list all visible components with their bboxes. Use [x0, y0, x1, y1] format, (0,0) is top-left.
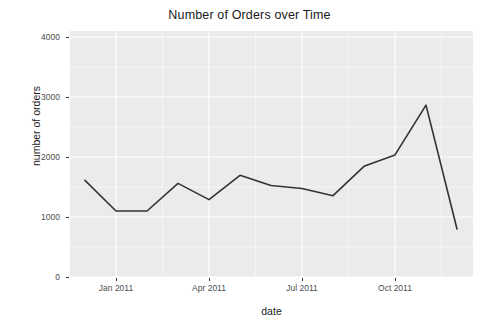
y-tick-label: 1000 [24, 213, 60, 222]
y-tick-mark [66, 217, 69, 218]
x-tick-label: Apr 2011 [192, 284, 226, 293]
y-tick-mark [66, 97, 69, 98]
data-line-series [70, 31, 473, 277]
x-tick-mark [209, 278, 210, 281]
y-tick-mark [66, 277, 69, 278]
chart-title: Number of Orders over Time [0, 8, 499, 22]
x-tick-mark [302, 278, 303, 281]
x-tick-mark [395, 278, 396, 281]
y-axis-title: number of orders [30, 46, 42, 206]
x-tick-mark [116, 278, 117, 281]
y-tick-label: 4000 [24, 33, 60, 42]
y-tick-mark [66, 157, 69, 158]
x-tick-label: Oct 2011 [378, 284, 412, 293]
chart-container: Number of Orders over Time 0100020003000… [0, 0, 499, 335]
x-axis-title: date [70, 305, 473, 317]
plot-panel [70, 31, 473, 277]
x-tick-label: Jan 2011 [99, 284, 133, 293]
x-tick-label: Jul 2011 [286, 284, 318, 293]
y-tick-label: 0 [24, 273, 60, 282]
y-tick-mark [66, 37, 69, 38]
